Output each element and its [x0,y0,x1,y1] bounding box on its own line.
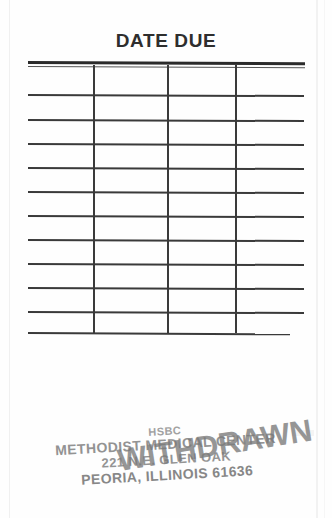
row-rule [28,94,304,97]
scanned-date-due-slip: DATE DUE HSBC METHODIST MEDICAL CENTER 2… [0,0,332,518]
row-rule [28,143,304,146]
page-title: DATE DUE [0,30,332,52]
column-separator-3 [235,65,237,333]
column-separator-1 [93,65,95,333]
library-stamp: HSBC METHODIST MEDICAL CENTER 221 N.E. G… [0,425,332,518]
row-rule [28,215,304,218]
row-rule [28,287,304,290]
row-rule [28,191,304,194]
row-rule [28,239,304,242]
row-rule [28,311,304,314]
row-rule [28,167,304,170]
row-rule [28,263,304,266]
row-rule [28,119,304,122]
table-bottom-rule [28,332,290,335]
date-due-table [28,61,306,333]
column-separator-2 [167,65,169,333]
